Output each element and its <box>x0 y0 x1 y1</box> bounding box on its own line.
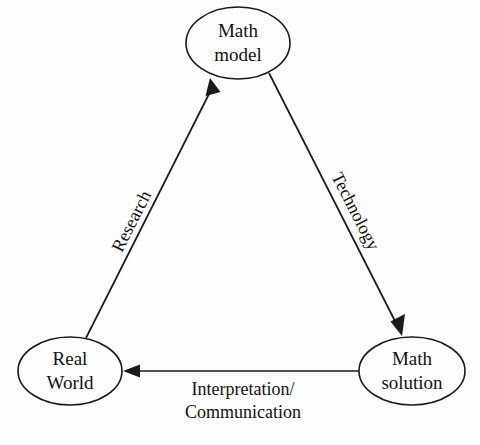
edge-technology-line <box>269 73 398 327</box>
node-real-world-ellipse[interactable] <box>18 337 122 405</box>
modelling-cycle-diagram: Research Technology Interpretation/ Comm… <box>0 0 480 445</box>
node-real-world-label-line2: World <box>46 372 94 393</box>
node-math-model-label-line1: Math <box>218 20 259 41</box>
node-math-model-ellipse[interactable] <box>186 7 290 79</box>
node-math-solution[interactable]: Math solution <box>359 337 465 405</box>
edge-research: Research <box>86 78 221 338</box>
node-math-solution-ellipse[interactable] <box>359 337 465 405</box>
edge-interpretation-label-line1: Interpretation/ <box>192 379 295 399</box>
node-real-world[interactable]: Real World <box>18 337 122 405</box>
edge-research-line <box>86 86 213 338</box>
edge-research-arrowhead <box>206 78 221 96</box>
node-real-world-label-line1: Real <box>53 348 88 369</box>
edge-interpretation-label-line2: Communication <box>185 402 301 422</box>
node-math-solution-label-line2: solution <box>381 372 443 393</box>
node-math-model-label-line2: model <box>214 44 262 65</box>
edge-interpretation-communication: Interpretation/ Communication <box>123 365 359 423</box>
node-math-solution-label-line1: Math <box>392 348 433 369</box>
edge-research-label: Research <box>107 187 155 255</box>
edge-technology-label: Technology <box>328 169 384 254</box>
edge-technology: Technology <box>269 73 405 336</box>
edge-interpretation-arrowhead <box>123 365 140 378</box>
diagram-canvas: Research Technology Interpretation/ Comm… <box>0 0 480 445</box>
node-math-model[interactable]: Math model <box>186 7 290 79</box>
